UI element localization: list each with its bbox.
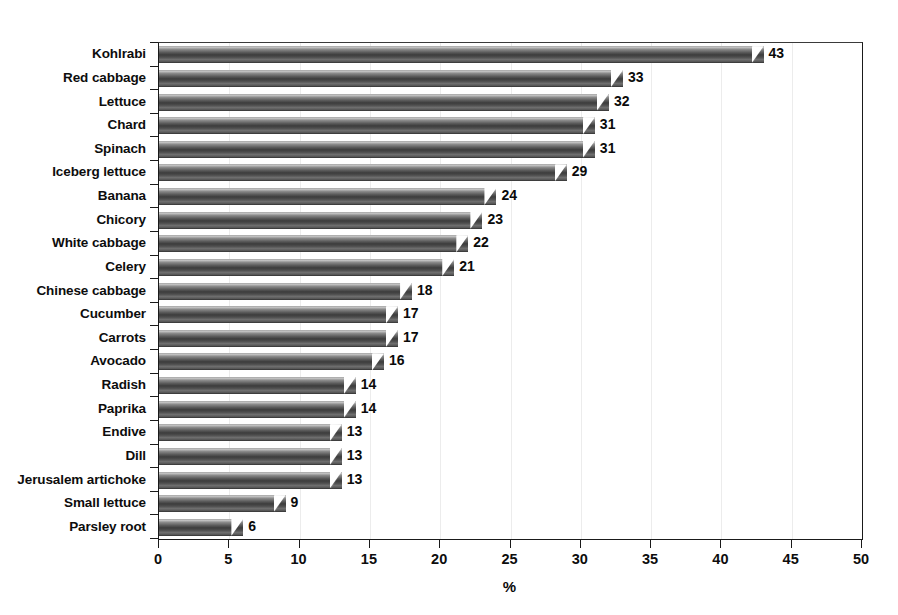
bar-value-label: 32 — [614, 94, 630, 108]
x-axis-tick — [861, 540, 862, 548]
bar[interactable]: 23 — [159, 212, 482, 229]
bar[interactable]: 22 — [159, 235, 468, 252]
bar[interactable]: 9 — [159, 495, 286, 512]
y-axis-label: Cucumber — [0, 302, 152, 326]
y-axis-label: Radish — [0, 373, 152, 397]
x-axis-tick — [720, 540, 721, 548]
y-axis-label: Chinese cabbage — [0, 278, 152, 302]
bar-row: 17 — [159, 327, 862, 351]
bar-row: 31 — [159, 114, 862, 138]
y-axis-label: Chard — [0, 113, 152, 137]
x-axis-tick — [228, 540, 229, 548]
bar-value-label: 29 — [572, 164, 588, 178]
bar-row: 33 — [159, 67, 862, 91]
y-axis-label: Spinach — [0, 137, 152, 161]
x-axis-tick — [439, 540, 440, 548]
x-axis-title: % — [158, 578, 861, 595]
bar[interactable]: 14 — [159, 401, 356, 418]
bar-value-label: 22 — [473, 235, 489, 249]
y-axis-label-text: Carrots — [99, 330, 146, 345]
bar-value-label: 9 — [291, 495, 299, 509]
x-axis-tick-label: 5 — [224, 551, 232, 567]
bar[interactable]: 13 — [159, 472, 342, 489]
bar-value-label: 17 — [403, 306, 419, 320]
bar-value-label: 14 — [361, 377, 377, 391]
bar-row: 43 — [159, 43, 862, 67]
x-axis-tick-label: 0 — [154, 551, 162, 567]
bar-value-label: 14 — [361, 401, 377, 415]
bar[interactable]: 6 — [159, 519, 243, 536]
y-axis-label: Iceberg lettuce — [0, 160, 152, 184]
y-axis-label: Carrots — [0, 326, 152, 350]
y-axis-label-text: White cabbage — [52, 235, 146, 250]
x-axis-tick-label: 15 — [361, 551, 377, 567]
y-axis-label: Paprika — [0, 396, 152, 420]
y-axis-label-text: Kohlrabi — [92, 46, 146, 61]
bar[interactable]: 17 — [159, 306, 398, 323]
bar-value-label: 31 — [600, 141, 616, 155]
y-axis-label: White cabbage — [0, 231, 152, 255]
bar-value-label: 13 — [347, 472, 363, 486]
bar-value-label: 16 — [389, 353, 405, 367]
y-axis-label: Small lettuce — [0, 491, 152, 515]
y-axis-label-text: Endive — [102, 424, 146, 439]
y-axis-label-text: Avocado — [90, 353, 146, 368]
bar[interactable]: 18 — [159, 283, 412, 300]
y-axis-label: Lettuce — [0, 89, 152, 113]
bar[interactable]: 13 — [159, 424, 342, 441]
y-axis-label-text: Radish — [102, 377, 146, 392]
bar-value-label: 33 — [628, 70, 644, 84]
bar[interactable]: 21 — [159, 259, 454, 276]
bar[interactable]: 31 — [159, 117, 595, 134]
bar[interactable]: 43 — [159, 46, 764, 63]
y-axis-category-labels: KohlrabiRed cabbageLettuceChardSpinachIc… — [0, 42, 152, 538]
x-axis-tick-label: 35 — [642, 551, 658, 567]
bar[interactable]: 13 — [159, 448, 342, 465]
x-axis-tick-label: 20 — [431, 551, 447, 567]
x-axis-tick-label: 25 — [501, 551, 517, 567]
y-axis-label: Banana — [0, 184, 152, 208]
y-axis-label-text: Lettuce — [99, 94, 146, 109]
y-axis-label-text: Chinese cabbage — [36, 283, 146, 298]
y-axis-label-text: Iceberg lettuce — [52, 164, 146, 179]
bar-value-label: 24 — [501, 188, 517, 202]
bar-value-label: 6 — [248, 519, 256, 533]
bar-value-label: 43 — [769, 46, 785, 60]
bar-row: 24 — [159, 185, 862, 209]
y-axis-label: Celery — [0, 255, 152, 279]
x-axis-tick — [580, 540, 581, 548]
x-axis-tick — [369, 540, 370, 548]
bar-value-label: 17 — [403, 330, 419, 344]
bar-value-label: 21 — [459, 259, 475, 273]
bar-row: 29 — [159, 161, 862, 185]
x-axis-tick — [650, 540, 651, 548]
bar-row: 31 — [159, 138, 862, 162]
bar-row: 14 — [159, 397, 862, 421]
bar[interactable]: 24 — [159, 188, 496, 205]
bar-chart: KohlrabiRed cabbageLettuceChardSpinachIc… — [0, 0, 898, 615]
y-axis-label-text: Dill — [125, 448, 146, 463]
bar[interactable]: 31 — [159, 141, 595, 158]
bar[interactable]: 32 — [159, 94, 609, 111]
plot-area: 4333323131292423222118171716141413131396 — [158, 42, 863, 540]
y-axis-label-text: Banana — [98, 188, 146, 203]
x-axis-tick-label: 50 — [853, 551, 869, 567]
y-axis-label: Kohlrabi — [0, 42, 152, 66]
y-axis-label-text: Parsley root — [69, 519, 146, 534]
bar[interactable]: 14 — [159, 377, 356, 394]
y-axis-label: Jerusalem artichoke — [0, 467, 152, 491]
bar-row: 13 — [159, 468, 862, 492]
bar-value-label: 23 — [487, 212, 503, 226]
bar-value-label: 13 — [347, 424, 363, 438]
bar[interactable]: 33 — [159, 70, 623, 87]
bar[interactable]: 17 — [159, 330, 398, 347]
bar-row: 16 — [159, 350, 862, 374]
y-axis-label: Avocado — [0, 349, 152, 373]
bar[interactable]: 29 — [159, 164, 567, 181]
bar-row: 14 — [159, 374, 862, 398]
y-axis-label: Red cabbage — [0, 66, 152, 90]
y-axis-label-text: Chicory — [96, 212, 146, 227]
x-axis: 05101520253035404550 — [158, 540, 861, 570]
bar-row: 6 — [159, 516, 862, 540]
bar[interactable]: 16 — [159, 353, 384, 370]
